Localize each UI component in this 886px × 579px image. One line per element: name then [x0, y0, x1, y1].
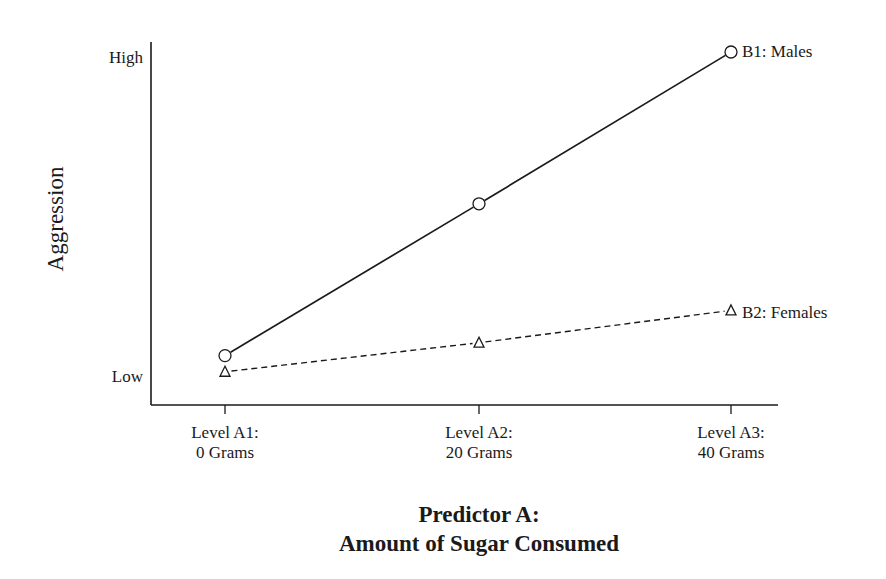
x-category-label-a2: Level A2: 20 Grams	[445, 423, 513, 462]
series-line-segment	[231, 207, 474, 352]
series-line-segment	[485, 55, 726, 200]
series-males	[219, 46, 737, 362]
svg-text:20 Grams: 20 Grams	[446, 443, 513, 462]
x-ticks	[225, 405, 731, 414]
svg-text:Level A2:: Level A2:	[445, 423, 513, 442]
y-tick-low: Low	[112, 367, 144, 386]
y-tick-high: High	[109, 48, 144, 67]
series-line-segment	[231, 343, 472, 371]
svg-text:Level A3:: Level A3:	[697, 423, 765, 442]
svg-text:Amount of Sugar Consumed: Amount of Sugar Consumed	[339, 531, 619, 556]
y-axis-label: Aggression	[43, 166, 68, 271]
series-females	[220, 305, 736, 376]
circle-marker	[473, 198, 485, 210]
x-category-label-a1: Level A1: 0 Grams	[191, 423, 259, 462]
circle-marker	[725, 46, 737, 58]
svg-text:0 Grams: 0 Grams	[196, 443, 254, 462]
x-axis-title: Predictor A: Amount of Sugar Consumed	[339, 502, 619, 556]
x-category-label-a3: Level A3: 40 Grams	[697, 423, 765, 462]
legend-label-females: B2: Females	[742, 303, 827, 322]
triangle-marker	[474, 337, 484, 347]
svg-text:Predictor A:: Predictor A:	[418, 502, 539, 527]
circle-marker	[219, 350, 231, 362]
interaction-line-chart: High Low Aggression Level A1: 0 Grams Le…	[0, 0, 886, 579]
svg-text:40 Grams: 40 Grams	[698, 443, 765, 462]
triangle-marker	[220, 366, 230, 376]
svg-text:Level A1:: Level A1:	[191, 423, 259, 442]
legend-label-males: B1: Males	[742, 42, 812, 61]
triangle-marker	[726, 305, 736, 315]
series-line-segment	[485, 311, 724, 342]
